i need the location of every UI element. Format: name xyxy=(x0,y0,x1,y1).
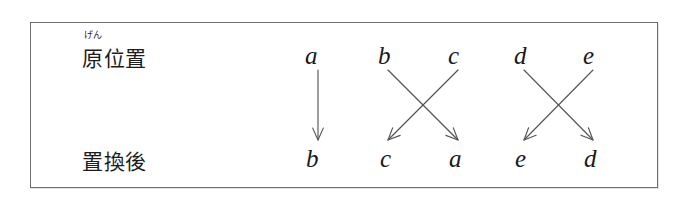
permutation-figure: げん 原位置 置換後 a b c d e b c a e d xyxy=(0,0,686,205)
row-label-original-position: 原位置 xyxy=(82,42,147,72)
top-letter-0: a xyxy=(305,43,318,68)
row-label-after-substitution: 置換後 xyxy=(82,145,147,175)
top-letter-2: c xyxy=(448,43,459,68)
bottom-letter-2: a xyxy=(449,146,462,171)
furigana-gen: げん xyxy=(84,28,103,41)
bottom-letter-1: c xyxy=(380,146,391,171)
top-letter-4: e xyxy=(583,43,594,68)
bottom-letter-3: e xyxy=(515,146,526,171)
top-letter-3: d xyxy=(514,43,527,68)
bottom-letter-4: d xyxy=(584,146,597,171)
top-letter-1: b xyxy=(378,43,391,68)
bottom-letter-0: b xyxy=(306,146,319,171)
